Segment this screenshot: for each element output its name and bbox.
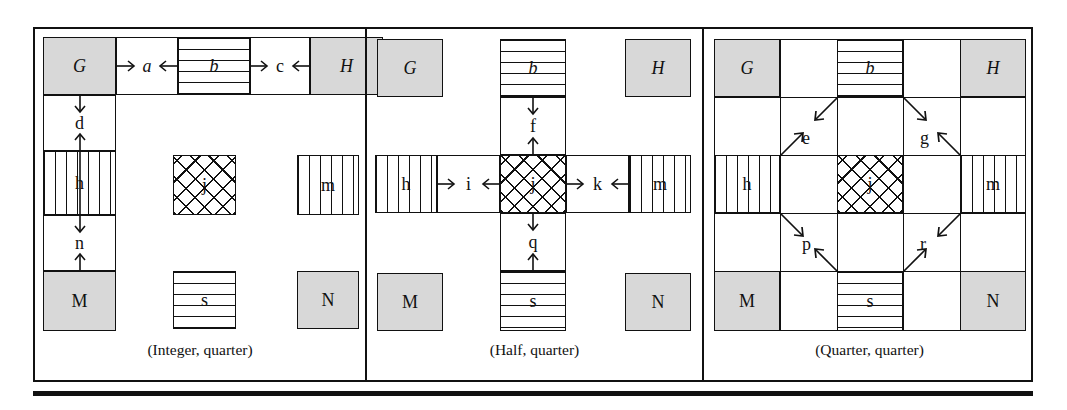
grid-line-h1 <box>714 97 1026 98</box>
block-label: b <box>209 57 220 75</box>
panel-half-quarter: G H M N b f <box>365 29 702 380</box>
block-label: j <box>867 175 872 193</box>
block-b: b <box>178 37 250 95</box>
block-label: N <box>652 293 665 311</box>
block-label: G <box>404 59 417 77</box>
block-label: b <box>865 59 876 77</box>
block-label: H <box>987 59 1000 77</box>
block-label: s <box>865 292 874 310</box>
block-h: h <box>714 155 780 213</box>
block-M: M <box>377 273 443 331</box>
block-m: m <box>629 155 691 213</box>
block-label: m <box>320 176 336 194</box>
panel-stage: G H M N b f <box>367 29 702 339</box>
block-label: h <box>74 174 85 192</box>
block-label: M <box>71 292 87 310</box>
block-label: f <box>530 117 536 135</box>
block-j: j <box>173 155 236 215</box>
block-label: c <box>276 57 284 75</box>
block-label: h <box>742 175 753 193</box>
block-label: i <box>466 175 471 193</box>
arrow-e-inward-pair <box>780 97 838 156</box>
panel-stage: G H M N b h m s <box>704 29 1035 339</box>
block-G: G <box>714 39 780 97</box>
block-label: H <box>652 59 665 77</box>
block-label: a <box>143 57 152 75</box>
block-label: N <box>987 292 1000 310</box>
block-G: G <box>43 37 116 95</box>
block-label: n <box>75 234 84 252</box>
block-m: m <box>297 155 359 215</box>
block-b: b <box>500 39 566 97</box>
grid-line-v-center-right <box>903 39 904 331</box>
block-b: b <box>837 39 903 97</box>
block-label: m <box>652 175 668 193</box>
block-label: s <box>528 292 537 310</box>
block-s: s <box>500 271 566 331</box>
block-label: M <box>402 293 418 311</box>
block-label: h <box>401 175 412 193</box>
block-j: j <box>837 155 903 213</box>
block-N: N <box>960 271 1026 331</box>
block-N: N <box>297 271 359 329</box>
block-label: H <box>340 57 353 75</box>
block-label: G <box>741 59 754 77</box>
block-label: G <box>73 57 86 75</box>
bottom-rule <box>33 391 1033 396</box>
block-h: h <box>375 155 437 213</box>
panel-caption: (Quarter, quarter) <box>704 341 1035 359</box>
block-s: s <box>173 271 236 329</box>
block-label: d <box>75 114 84 132</box>
block-label: j <box>530 175 535 193</box>
block-M: M <box>714 271 780 331</box>
block-label: s <box>200 291 209 309</box>
block-M: M <box>43 271 116 331</box>
block-label: k <box>593 175 602 193</box>
arrow-r-inward-pair <box>903 213 961 272</box>
panel-caption: (Half, quarter) <box>367 341 702 359</box>
block-label: m <box>985 175 1001 193</box>
grid-line-h-center-bottom <box>714 213 1026 214</box>
panel-stage: G a b c <box>35 29 365 339</box>
block-label: j <box>201 176 208 194</box>
panel-caption: (Integer, quarter) <box>35 341 365 359</box>
arrow-p-inward-pair <box>780 213 838 272</box>
grid-line-v1 <box>780 39 781 331</box>
block-label: q <box>529 233 538 251</box>
block-H: H <box>960 39 1026 97</box>
block-H: H <box>625 39 691 97</box>
block-G: G <box>377 39 443 97</box>
block-label: N <box>322 291 335 309</box>
arrow-g-inward-pair <box>903 97 961 156</box>
panel-quarter-quarter: G H M N b h m s <box>702 29 1035 380</box>
block-label: b <box>528 59 539 77</box>
block-N: N <box>625 273 691 331</box>
block-j: j <box>500 155 566 213</box>
figure-frame: G a b c <box>33 27 1033 382</box>
block-s: s <box>837 271 903 331</box>
block-label: M <box>739 292 755 310</box>
panel-integer-quarter: G a b c <box>35 29 365 380</box>
block-m: m <box>960 155 1026 213</box>
